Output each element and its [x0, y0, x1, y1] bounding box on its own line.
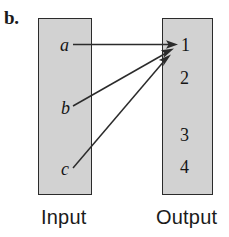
input-element-a: a	[60, 36, 69, 54]
panel-label: b.	[4, 8, 19, 28]
output-element-4: 4	[180, 158, 189, 176]
output-element-3: 3	[180, 126, 189, 144]
output-element-2: 2	[180, 69, 189, 87]
output-element-1: 1	[181, 36, 190, 54]
input-element-c: c	[61, 160, 69, 178]
output-caption: Output	[156, 206, 217, 228]
figure-panel: b. a b c 1 2 3 4 Input Output	[0, 0, 229, 237]
input-caption: Input	[41, 206, 86, 228]
input-element-b: b	[61, 99, 70, 117]
